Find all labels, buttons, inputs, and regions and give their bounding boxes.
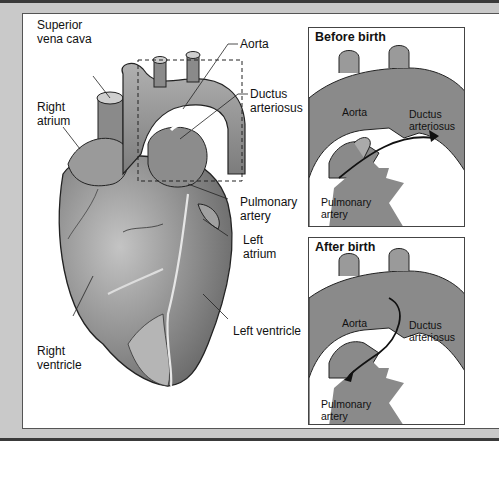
label-right-atrium: Right atrium	[37, 100, 70, 128]
panel-title-before-birth: Before birth	[315, 30, 386, 44]
after-label-ductus-arteriosus: Ductus arteriosus	[409, 319, 455, 343]
before-label-ductus-arteriosus: Ductus arteriosus	[409, 108, 455, 132]
before-label-pulmonary-artery: Pulmonary artery	[321, 196, 371, 220]
label-ductus-arteriosus: Ductus arteriosus	[250, 87, 303, 115]
before-label-aorta: Aorta	[342, 106, 367, 118]
panel-after-birth: After birth Aorta Ductus arteriosus Pulm…	[308, 237, 465, 425]
label-left-ventricle: Left ventricle	[233, 324, 301, 338]
label-right-ventricle: Right ventricle	[37, 344, 82, 372]
label-left-atrium: Left atrium	[243, 233, 276, 261]
panel-title-after-birth: After birth	[315, 240, 375, 254]
label-pulmonary-artery: Pulmonary artery	[240, 195, 297, 223]
after-label-aorta: Aorta	[342, 317, 367, 329]
after-label-pulmonary-artery: Pulmonary artery	[321, 398, 371, 422]
panel-before-birth: Before birth Aorta Ductus arteriosus Pul…	[308, 27, 465, 227]
label-superior-vena-cava: Superior vena cava	[37, 18, 92, 46]
label-aorta: Aorta	[240, 37, 269, 51]
figure-canvas: Superior vena cava Right atrium Aorta Du…	[22, 13, 499, 429]
